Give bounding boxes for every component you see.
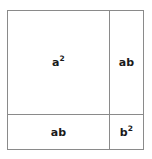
cell-top-right-label: ab	[119, 57, 135, 68]
cell-top-left: a2	[8, 11, 109, 114]
cell-bottom-left-label: ab	[51, 127, 67, 138]
cell-top-left-exponent: 2	[60, 54, 65, 63]
cell-bottom-left-base: ab	[51, 126, 67, 139]
algebraic-square-diagram: a2 ab ab b2	[0, 0, 152, 159]
cell-bottom-right-base: b	[120, 126, 128, 139]
cell-top-left-label: a2	[52, 57, 65, 68]
cell-bottom-right-exponent: 2	[128, 124, 133, 133]
cell-bottom-right-label: b2	[120, 127, 134, 138]
outer-square: a2 ab ab b2	[7, 10, 144, 150]
cell-bottom-right: b2	[110, 115, 143, 150]
cell-top-right-base: ab	[119, 56, 135, 69]
cell-top-left-base: a	[52, 56, 60, 69]
cell-bottom-left: ab	[8, 115, 109, 150]
cell-top-right: ab	[110, 11, 143, 114]
